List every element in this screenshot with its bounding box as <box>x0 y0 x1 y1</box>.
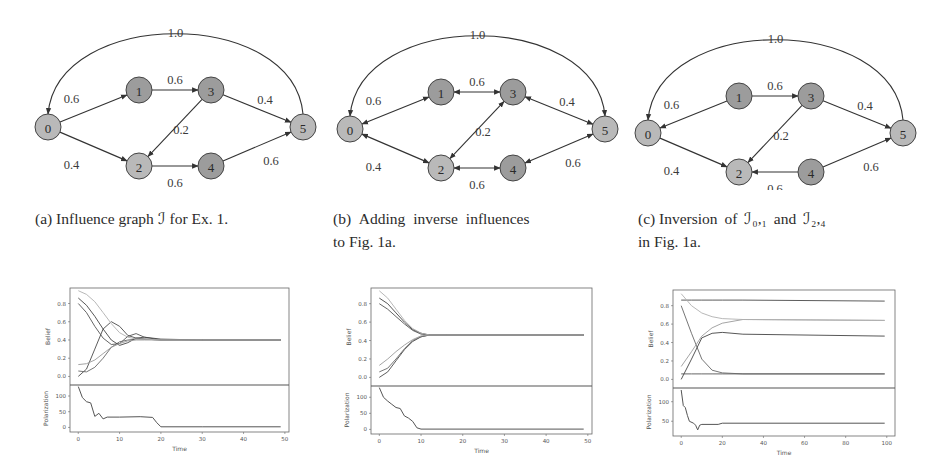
edge-0-2: 0.4 <box>60 132 127 171</box>
edge-0-1: 0.6 <box>362 94 429 125</box>
time-axis-label: Time <box>473 447 489 454</box>
caption-c-line2: in Fig. 1a. <box>638 232 948 251</box>
x-tick-label: 10 <box>116 436 123 442</box>
edge-weight-label: 0.4 <box>257 93 273 107</box>
node-4: 4 <box>500 155 526 181</box>
caption-a-text: Influence graph ℐ for Ex. 1. <box>56 210 228 227</box>
edge-4-5: 0.6 <box>823 138 891 173</box>
caption-a-prefix: (a) <box>35 210 52 227</box>
edge-weight-label: 0.6 <box>167 176 183 190</box>
belief-polarization-chart-b: 0.00.20.40.60.8Belief050100Polarization0… <box>300 280 630 462</box>
caption-a: (a) Influence graph ℐ for Ex. 1. <box>35 209 325 228</box>
y-tick-label: 0.0 <box>57 373 66 379</box>
plot-frame <box>371 288 592 434</box>
y-tick-label: 100 <box>659 399 670 405</box>
y-tick-label: 0.8 <box>57 301 66 307</box>
edge-3-2: 0.2 <box>148 99 202 156</box>
y-tick-label: 0.4 <box>358 338 367 344</box>
edge-weight-label: 1.0 <box>470 28 486 42</box>
x-tick-label: 50 <box>584 438 591 444</box>
edge-weight-label: 0.6 <box>263 154 279 168</box>
edge-weight-label: 0.6 <box>565 156 581 170</box>
plot-frame <box>673 290 895 436</box>
edge-weight-label: 0.2 <box>173 123 189 137</box>
y-tick-label: 50 <box>360 410 367 416</box>
svg-text:1: 1 <box>438 86 445 101</box>
node-5: 5 <box>592 116 618 142</box>
caption-b: (b) Adding inverse influences to Fig. 1a… <box>333 209 633 251</box>
edge-weight-label: 0.4 <box>664 164 680 178</box>
edge-weight-label: 0.6 <box>469 75 485 89</box>
edge-3-2: 0.2 <box>748 105 802 162</box>
node-2: 2 <box>428 155 454 181</box>
edge-2-4: 0.6 <box>152 166 198 190</box>
x-tick-label: 30 <box>199 436 206 442</box>
x-tick-label: 0 <box>378 438 382 444</box>
node-4: 4 <box>198 153 224 179</box>
y-tick-label: 0 <box>63 424 67 430</box>
belief-polarization-chart-c: 0.00.20.40.60.8Belief50100Polarization02… <box>630 280 950 462</box>
y-tick-label: 0.2 <box>358 356 367 362</box>
polarization-line <box>78 387 280 427</box>
belief-line-4 <box>78 340 280 365</box>
x-tick-label: 0 <box>77 436 81 442</box>
edge-0-2: 0.4 <box>660 138 727 177</box>
y-tick-label: 0 <box>364 426 368 432</box>
node-0: 0 <box>635 120 661 146</box>
belief-line-4 <box>681 320 885 367</box>
svg-text:0: 0 <box>645 127 652 142</box>
polarization-line <box>681 390 885 430</box>
influence-graph-a: 0.60.40.60.20.40.60.61.0012345 <box>0 0 320 190</box>
node-1: 1 <box>126 77 152 103</box>
node-1: 1 <box>428 79 454 105</box>
caption-c-line1: Inversion of ℐ₀,₁ and ℐ₂,₄ <box>659 210 826 227</box>
node-3: 3 <box>500 79 526 105</box>
y-tick-label: 0.4 <box>660 340 669 346</box>
svg-text:3: 3 <box>808 90 815 105</box>
y-tick-label: 50 <box>662 418 669 424</box>
svg-text:4: 4 <box>510 162 517 177</box>
edge-0-2: 0.4 <box>362 134 429 173</box>
node-1: 1 <box>726 83 752 109</box>
caption-b-line1: Adding inverse influences <box>359 210 530 227</box>
time-axis-label: Time <box>171 445 187 452</box>
svg-text:3: 3 <box>510 86 517 101</box>
edge-0-1: 0.6 <box>60 92 127 123</box>
edge-weight-label: 0.4 <box>559 95 575 109</box>
edge-weight-label: 0.4 <box>366 160 382 174</box>
y-tick-label: 100 <box>357 394 368 400</box>
x-tick-label: 20 <box>157 436 164 442</box>
edge-4-5: 0.6 <box>525 134 593 169</box>
svg-text:5: 5 <box>900 127 907 142</box>
edge-weight-label: 1.0 <box>168 26 184 40</box>
time-axis-label: Time <box>776 449 792 456</box>
edge-4-5: 0.6 <box>223 132 291 167</box>
x-tick-label: 40 <box>543 438 550 444</box>
belief-axis-label: Belief <box>647 330 654 348</box>
y-tick-label: 0.0 <box>358 374 367 380</box>
caption-b-line2: to Fig. 1a. <box>333 232 633 251</box>
edge-weight-label: 0.6 <box>167 73 183 87</box>
influence-graph-b: 0.60.40.60.20.40.60.61.0012345 <box>310 0 630 190</box>
belief-line-4 <box>379 335 583 365</box>
plot-frame <box>70 288 289 432</box>
belief-line-5 <box>78 291 280 340</box>
edge-1-0: 0.6 <box>660 98 727 129</box>
x-tick-label: 40 <box>760 440 767 446</box>
y-tick-label: 50 <box>59 409 66 415</box>
polarization-line <box>379 388 583 430</box>
belief-line-0 <box>681 300 885 301</box>
x-tick-label: 0 <box>679 440 683 446</box>
node-2: 2 <box>126 153 152 179</box>
belief-axis-label: Belief <box>44 327 51 345</box>
svg-text:2: 2 <box>736 166 743 181</box>
y-tick-label: 0.4 <box>57 337 66 343</box>
x-tick-label: 50 <box>281 436 288 442</box>
graph-a-svg: 0.60.40.60.20.40.60.61.0012345 <box>0 0 320 190</box>
x-tick-label: 60 <box>801 440 808 446</box>
node-4: 4 <box>798 159 824 185</box>
edge-1-3: 0.6 <box>152 73 198 90</box>
belief-line-2 <box>78 339 280 372</box>
edge-weight-label: 0.6 <box>767 182 783 190</box>
belief-polarization-chart-a: 0.00.20.40.60.8Belief050100Polarization0… <box>0 280 310 462</box>
